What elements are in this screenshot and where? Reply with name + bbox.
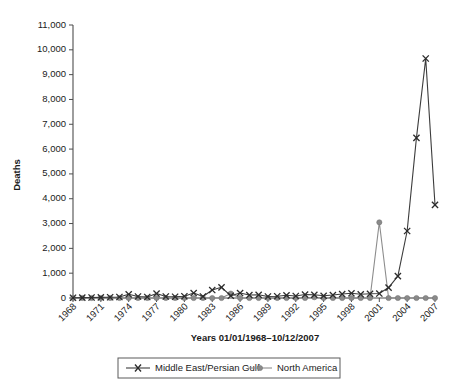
y-tick-label: 11,000 — [38, 19, 66, 30]
x-tick-label: 1983 — [195, 301, 218, 324]
data-point-marker-x — [209, 287, 215, 293]
data-point-marker-dot — [219, 295, 224, 300]
legend-label-middle-east: Middle East/Persian Gulf — [155, 362, 260, 373]
y-tick-label: 9,000 — [42, 68, 66, 79]
series-polyline — [73, 59, 435, 298]
x-tick-label: 2001 — [362, 301, 385, 324]
x-tick-label: 2007 — [418, 301, 441, 324]
y-tick-label: 2,000 — [42, 242, 66, 253]
series-north-america — [70, 220, 437, 301]
deaths-by-region-line-chart: Deaths 01,0002,0003,0004,0005,0006,0007,… — [0, 0, 454, 388]
x-tick-label: 1998 — [334, 301, 357, 324]
x-tick-label: 2004 — [390, 301, 413, 324]
y-tick-label: 4,000 — [42, 192, 66, 203]
y-tick-label: 10,000 — [37, 43, 66, 54]
data-point-marker-dot — [432, 295, 437, 300]
data-point-marker-dot — [210, 295, 215, 300]
y-tick-label: 6,000 — [42, 143, 66, 154]
series-middle-east-persian-gulf — [70, 55, 438, 300]
x-axis-ticks: 1968197119741977198019831986198919921995… — [56, 298, 441, 323]
y-tick-label: 8,000 — [42, 93, 66, 104]
y-tick-label: 1,000 — [42, 267, 66, 278]
legend-label-north-america: North America — [277, 362, 338, 373]
y-tick-label: 3,000 — [42, 217, 66, 228]
x-tick-label: 1968 — [56, 301, 79, 324]
data-point-marker-dot — [349, 295, 354, 300]
x-tick-label: 1971 — [84, 301, 107, 324]
x-tick-label: 1974 — [111, 301, 134, 324]
data-point-marker-dot — [386, 295, 391, 300]
legend-marker-dot-icon — [257, 365, 262, 370]
x-tick-label: 1977 — [139, 301, 162, 324]
y-tick-label: 7,000 — [42, 118, 66, 129]
chart-legend: Middle East/Persian Gulf North America — [118, 358, 340, 378]
data-point-marker-dot — [395, 295, 400, 300]
y-axis-title-label: Deaths — [11, 159, 22, 191]
data-point-marker-dot — [414, 295, 419, 300]
y-axis-title: Deaths — [11, 159, 22, 191]
series-polyline — [73, 222, 435, 298]
y-axis-ticks: 01,0002,0003,0004,0005,0006,0007,0008,00… — [37, 19, 73, 303]
x-tick-label: 1986 — [223, 301, 246, 324]
y-tick-label: 5,000 — [42, 167, 66, 178]
x-tick-label: 1992 — [278, 301, 301, 324]
data-point-marker-dot — [237, 295, 242, 300]
data-point-marker-dot — [423, 295, 428, 300]
x-axis-title-label: Years 01/01/1968–10/12/2007 — [191, 332, 319, 343]
data-point-marker-x — [385, 284, 391, 290]
chart-container: Deaths 01,0002,0003,0004,0005,0006,0007,… — [0, 0, 454, 388]
data-point-marker-x — [218, 284, 224, 290]
x-tick-label: 1989 — [251, 301, 274, 324]
x-tick-label: 1980 — [167, 301, 190, 324]
data-point-marker-dot — [377, 220, 382, 225]
data-point-marker-dot — [191, 295, 196, 300]
data-point-marker-dot — [405, 295, 410, 300]
x-tick-label: 1995 — [306, 301, 329, 324]
y-tick-label: 0 — [61, 292, 66, 303]
